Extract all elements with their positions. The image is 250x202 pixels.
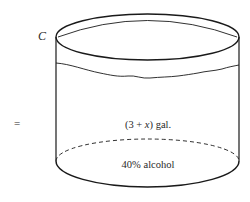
volume-suffix: ) gal. — [150, 119, 172, 130]
diagram-canvas: C = (3 + x) gal. 40% alcohol — [0, 0, 250, 202]
equals-sign: = — [14, 118, 20, 129]
volume-prefix: (3 + — [125, 119, 145, 130]
concentration-label: 40% alcohol — [122, 160, 175, 171]
cylinder-inner-rim — [58, 21, 237, 38]
container-label: C — [38, 30, 46, 42]
cylinder-bottom-back-dashed — [56, 139, 239, 161]
volume-label: (3 + x) gal. — [125, 120, 171, 131]
liquid-surface-line — [56, 63, 239, 78]
